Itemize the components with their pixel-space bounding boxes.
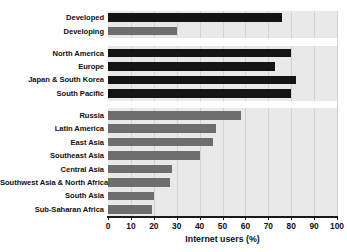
category-label: Southeast Asia <box>0 151 104 160</box>
category-label: Central Asia <box>0 165 104 174</box>
bar <box>108 138 213 147</box>
bar-row <box>108 138 337 147</box>
x-tick <box>131 216 132 220</box>
x-tick <box>268 216 269 220</box>
bar-row <box>108 27 337 36</box>
bar <box>108 192 154 201</box>
x-tick-label: 100 <box>330 221 344 231</box>
category-label: Latin America <box>0 124 104 133</box>
bar-row <box>108 124 337 133</box>
category-label: Europe <box>0 62 104 71</box>
x-tick <box>154 216 155 220</box>
bar-row <box>108 205 337 214</box>
bar-row <box>108 165 337 174</box>
x-tick <box>245 216 246 220</box>
bar <box>108 89 291 98</box>
x-tick-label: 0 <box>106 221 111 231</box>
bar <box>108 76 296 85</box>
x-tick-label: 60 <box>241 221 250 231</box>
category-label: Developing <box>0 27 104 36</box>
bar-row <box>108 151 337 160</box>
bar-row <box>108 76 337 85</box>
bar-row <box>108 192 337 201</box>
bar-row <box>108 62 337 71</box>
plot-area <box>108 11 337 216</box>
bar <box>108 111 241 120</box>
bar <box>108 13 282 22</box>
category-label: Developed <box>0 13 104 22</box>
bar-row <box>108 111 337 120</box>
x-tick-label: 80 <box>287 221 296 231</box>
x-tick <box>314 216 315 220</box>
bar <box>108 165 172 174</box>
bar-row <box>108 13 337 22</box>
category-label: East Asia <box>0 138 104 147</box>
x-tick-label: 30 <box>172 221 181 231</box>
bar <box>108 124 216 133</box>
x-tick <box>337 216 338 220</box>
category-label: Russia <box>0 111 104 120</box>
category-axis-labels: DevelopedDevelopingNorth AmericaEuropeJa… <box>0 11 104 216</box>
x-tick-label: 50 <box>218 221 227 231</box>
bar <box>108 27 177 36</box>
x-tick-label: 70 <box>264 221 273 231</box>
x-tick <box>223 216 224 220</box>
group-separator-band <box>108 101 337 109</box>
group-separator-band <box>108 38 337 46</box>
x-tick <box>291 216 292 220</box>
x-tick-label: 90 <box>309 221 318 231</box>
x-tick <box>200 216 201 220</box>
internet-users-bar-chart: DevelopedDevelopingNorth AmericaEuropeJa… <box>0 0 347 252</box>
x-tick-label: 20 <box>149 221 158 231</box>
x-tick <box>177 216 178 220</box>
x-tick-label: 10 <box>126 221 135 231</box>
x-axis-ticks <box>108 216 337 220</box>
category-label: North America <box>0 49 104 58</box>
bar-row <box>108 49 337 58</box>
bar <box>108 151 200 160</box>
x-axis-title: Internet users (%) <box>108 234 337 244</box>
category-label: Japan & South Korea <box>0 75 104 84</box>
bar <box>108 49 291 58</box>
bar <box>108 178 170 187</box>
category-label: South Pacific <box>0 89 104 98</box>
bar <box>108 205 152 214</box>
category-label: Sub-Saharan Africa <box>0 205 104 214</box>
bar <box>108 62 275 71</box>
x-axis-tick-labels: 0102030405060708090100 <box>108 221 337 233</box>
bar-row <box>108 89 337 98</box>
x-tick-label: 40 <box>195 221 204 231</box>
gridline <box>337 11 338 216</box>
bar-row <box>108 178 337 187</box>
x-tick <box>108 216 109 220</box>
category-label: Southwest Asia & North Africa <box>0 178 104 187</box>
category-label: South Asia <box>0 191 104 200</box>
